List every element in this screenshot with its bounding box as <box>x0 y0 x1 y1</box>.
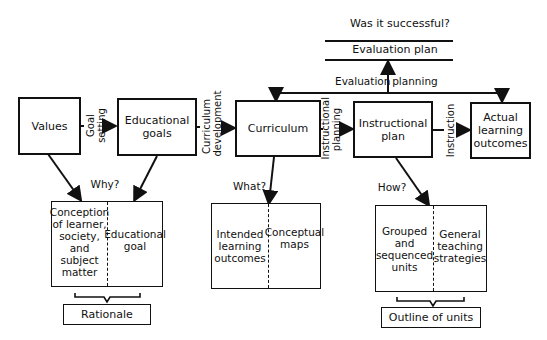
curriculum-development-label-2: development <box>212 97 223 157</box>
evaluation-plan-label: Evaluation plan <box>340 44 450 56</box>
evaluation-planning-right: planning <box>390 75 440 87</box>
how-question: How? <box>377 181 407 193</box>
goal-setting-label-1: Goal <box>85 106 96 146</box>
instructional-planning-label-2: planning <box>331 100 342 160</box>
evaluation-question: Was it successful? <box>340 18 460 30</box>
conception-text: Conception of learner, society, and subj… <box>52 202 107 286</box>
actual-learning-outcomes-box: Actual learning outcomes <box>470 102 531 159</box>
values-box: Values <box>18 97 81 155</box>
curriculum-detail-box: Intended learning outcomes Conceptual ma… <box>211 203 321 289</box>
instruction-label: Instruction <box>445 101 456 161</box>
rationale-box: Rationale <box>63 304 151 325</box>
outline-of-units-box: Outline of units <box>381 307 481 328</box>
instructional-detail-box: Grouped and sequenced units General teac… <box>375 205 487 292</box>
curriculum-box: Curriculum <box>235 100 321 157</box>
conceptual-maps-text: Conceptual maps <box>269 204 320 288</box>
why-question: Why? <box>90 178 120 190</box>
educational-goals-box: Educational goals <box>117 98 197 156</box>
grouped-units-text: Grouped and sequenced units <box>376 206 433 291</box>
rationale-detail-box: Conception of learner, society, and subj… <box>51 201 163 287</box>
instructional-plan-box: Instructional plan <box>353 101 433 158</box>
educational-goal-text: Educational goal <box>108 202 162 286</box>
intended-outcomes-text: Intended learning outcomes <box>212 204 268 288</box>
teaching-strategies-text: General teaching strategies <box>434 206 486 291</box>
curriculum-development-label-1: Curriculum <box>201 97 212 157</box>
evaluation-planning-left: Evaluation <box>335 75 385 87</box>
what-question: What? <box>232 180 267 192</box>
instructional-planning-label-1: Instructional <box>320 100 331 160</box>
goal-setting-label-2: setting <box>96 106 107 146</box>
